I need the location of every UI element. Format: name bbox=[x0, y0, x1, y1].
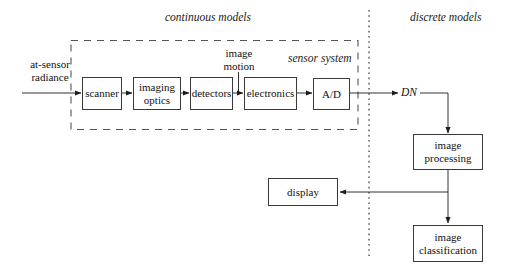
block-imaging-optics-label: imaging optics bbox=[137, 81, 177, 107]
block-scanner-label: scanner bbox=[83, 87, 121, 100]
input-label-at-sensor-radiance: at-sensor radiance bbox=[14, 58, 86, 84]
signal-label-dn: DN bbox=[401, 86, 417, 98]
input-label-image-motion: image motion bbox=[211, 47, 267, 73]
region-title-continuous-models: continuous models bbox=[165, 11, 251, 23]
connector-dn-to-image-processing bbox=[420, 93, 448, 133]
block-ad-converter-label: A/D bbox=[320, 88, 343, 101]
block-imaging-optics[interactable]: imaging optics bbox=[133, 77, 181, 110]
block-image-processing-label: image processing bbox=[422, 139, 473, 165]
block-scanner[interactable]: scanner bbox=[82, 77, 122, 110]
block-ad-converter[interactable]: A/D bbox=[313, 78, 350, 110]
region-title-discrete-models: discrete models bbox=[410, 11, 481, 23]
block-display-label: display bbox=[285, 186, 321, 199]
block-detectors[interactable]: detectors bbox=[190, 77, 233, 110]
block-electronics-label: electronics bbox=[245, 87, 297, 100]
block-image-processing[interactable]: image processing bbox=[413, 134, 483, 170]
block-display[interactable]: display bbox=[268, 178, 338, 206]
block-diagram: continuous models discrete models sensor… bbox=[0, 0, 508, 271]
block-image-classification[interactable]: image classification bbox=[413, 225, 483, 262]
block-electronics[interactable]: electronics bbox=[244, 77, 297, 110]
block-image-classification-label: image classification bbox=[417, 231, 479, 257]
region-title-sensor-system: sensor system bbox=[288, 52, 352, 64]
block-detectors-label: detectors bbox=[190, 87, 234, 100]
